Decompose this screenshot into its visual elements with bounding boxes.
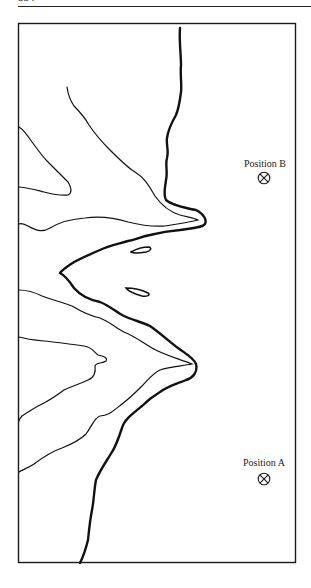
position-b-marker-icon bbox=[257, 171, 271, 185]
contour-upper-outer bbox=[19, 87, 198, 231]
contour-lower-outer bbox=[19, 290, 192, 472]
position-a-label: Position A bbox=[243, 457, 285, 468]
figure-frame bbox=[19, 24, 296, 563]
shoreline-thick-line bbox=[60, 28, 206, 563]
contour-lower-inner bbox=[19, 337, 107, 421]
position-b-label: Position B bbox=[244, 158, 286, 169]
island-upper bbox=[131, 247, 151, 253]
contour-upper-inner bbox=[19, 127, 71, 195]
position-a-marker-icon bbox=[257, 472, 271, 486]
island-lower bbox=[126, 288, 149, 296]
coastline-figure bbox=[0, 0, 311, 588]
